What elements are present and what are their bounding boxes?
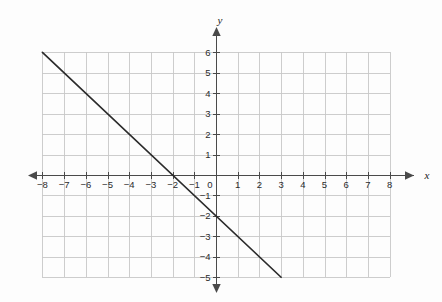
- data-line: [42, 52, 281, 277]
- y-axis-label: y: [217, 14, 223, 26]
- x-tick-label: −6: [80, 179, 91, 190]
- y-tick-label: 1: [205, 149, 210, 160]
- x-axis-arrow-left: [28, 171, 37, 179]
- x-tick-label: 2: [257, 179, 262, 190]
- x-axis-tick-labels: −8−7−6−5−4−3−2−1012345678: [37, 179, 392, 190]
- x-tick-label: 4: [300, 179, 305, 190]
- y-axis-tick-labels: 654321−1−2−3−4−5: [200, 47, 211, 283]
- x-tick-label: −5: [102, 179, 113, 190]
- y-tick-label: 5: [205, 67, 210, 78]
- y-tick-label: −4: [200, 251, 211, 262]
- y-tick-label: 3: [205, 108, 210, 119]
- y-tick-label: −5: [200, 272, 211, 283]
- graph-svg: −8−7−6−5−4−3−2−1012345678 654321−1−2−3−4…: [0, 0, 442, 302]
- y-tick-label: −2: [200, 210, 211, 221]
- x-tick-label: −7: [59, 179, 70, 190]
- x-tick-label: −3: [145, 179, 156, 190]
- x-tick-label: −4: [124, 179, 135, 190]
- x-tick-label: −1: [189, 179, 200, 190]
- x-tick-label: 7: [365, 179, 370, 190]
- x-tick-label: 8: [387, 179, 392, 190]
- y-tick-label: 6: [205, 47, 210, 58]
- x-axis-arrow-right: [405, 171, 414, 179]
- x-tick-label: 1: [235, 179, 240, 190]
- y-tick-label: −1: [200, 190, 211, 201]
- coordinate-plane-figure: −8−7−6−5−4−3−2−1012345678 654321−1−2−3−4…: [0, 0, 442, 302]
- plotted-line-series: [42, 52, 281, 277]
- x-tick-label: 5: [322, 179, 327, 190]
- x-tick-label: 3: [278, 179, 283, 190]
- x-tick-label: −8: [37, 179, 48, 190]
- x-tick-label: −2: [167, 179, 178, 190]
- y-tick-label: 4: [205, 88, 210, 99]
- x-tick-label: 6: [344, 179, 349, 190]
- y-axis-arrow-down: [212, 284, 220, 293]
- y-tick-label: 2: [205, 129, 210, 140]
- y-tick-label: −3: [200, 231, 211, 242]
- axis-lines: [28, 27, 414, 293]
- x-tick-label: 0: [207, 179, 212, 190]
- x-axis-label: x: [424, 169, 430, 181]
- y-axis-arrow-up: [212, 27, 220, 36]
